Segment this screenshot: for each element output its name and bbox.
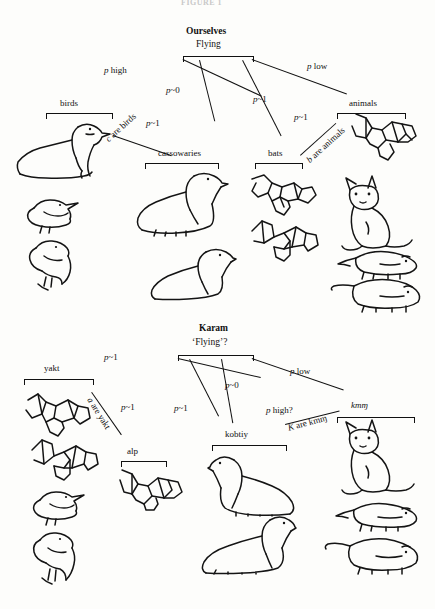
figure-caption-top: FIGURE 1 (181, 0, 222, 7)
rodent-drawing (324, 534, 424, 574)
edge-label-p-one-animals: p~1 (294, 113, 308, 122)
bird-small-drawing (28, 484, 90, 526)
category-label-kmn: kmɱ (351, 401, 368, 410)
bird-small-drawing (24, 192, 86, 234)
edge-label-k-p-one-c: p~1 (174, 404, 188, 413)
bracket-bats (255, 163, 303, 169)
bracket-yakt (24, 379, 94, 385)
bird-parrot-drawing (26, 528, 92, 586)
edge-label-p-zero: p~0 (166, 86, 180, 95)
panel-title-ourselves: Ourselves (186, 27, 226, 37)
relation-label-k-are-kmn: K are kmɱ (287, 414, 328, 433)
category-label-kobtiy: kobtiy (225, 430, 248, 439)
edge-label-k-p-one-b: p~1 (121, 403, 135, 412)
category-label-yakt: yakt (44, 364, 60, 373)
marsupial-kangaroo-drawing (336, 176, 412, 254)
edge-label-p-low: p low (307, 62, 327, 71)
rodent-drawing (334, 500, 422, 532)
root-node-flying-karam: ‘Flying’? (192, 338, 227, 348)
edge-label-k-p-high: p high? (266, 406, 293, 415)
bat-drawing (250, 173, 316, 217)
category-label-alp: alp (127, 447, 138, 456)
edge-label-p-high: p high (104, 66, 127, 75)
bat-drawing (26, 436, 98, 482)
edge-line-p-low (252, 59, 347, 95)
edge-label-p-one-birds: p~1 (146, 119, 160, 128)
cassowary-drawing (136, 168, 228, 236)
category-label-birds: birds (60, 99, 78, 108)
cassowary-drawing (200, 512, 296, 574)
rodent-drawing (330, 276, 426, 312)
edge-label-k-p-zero: p~0 (225, 381, 239, 390)
bat-drawing (120, 466, 184, 510)
bracket-kobtiy (212, 445, 287, 451)
bird-goose-drawing (16, 118, 116, 180)
category-label-animals: animals (349, 99, 377, 108)
bat-drawing (24, 392, 90, 440)
panel-title-karam: Karam (199, 324, 228, 334)
cassowary-drawing (208, 452, 298, 516)
bird-parrot-drawing (22, 236, 88, 292)
root-node-flying: Flying (196, 40, 221, 50)
edge-label-p-one-bats: p~1 (253, 95, 267, 104)
edge-label-k-p-low: p low (290, 367, 310, 376)
bat-drawing (248, 215, 318, 263)
cassowary-drawing (150, 244, 236, 300)
edge-label-k-p-one-a: p~1 (104, 353, 118, 362)
bat-drawing (350, 110, 418, 162)
category-label-bats: bats (268, 149, 283, 158)
edge-line-c-are-birds (113, 135, 172, 157)
marsupial-kangaroo-drawing (336, 420, 414, 498)
figure-page: FIGURE 1 Ourselves Flying p high p~0 p~1… (0, 0, 435, 609)
